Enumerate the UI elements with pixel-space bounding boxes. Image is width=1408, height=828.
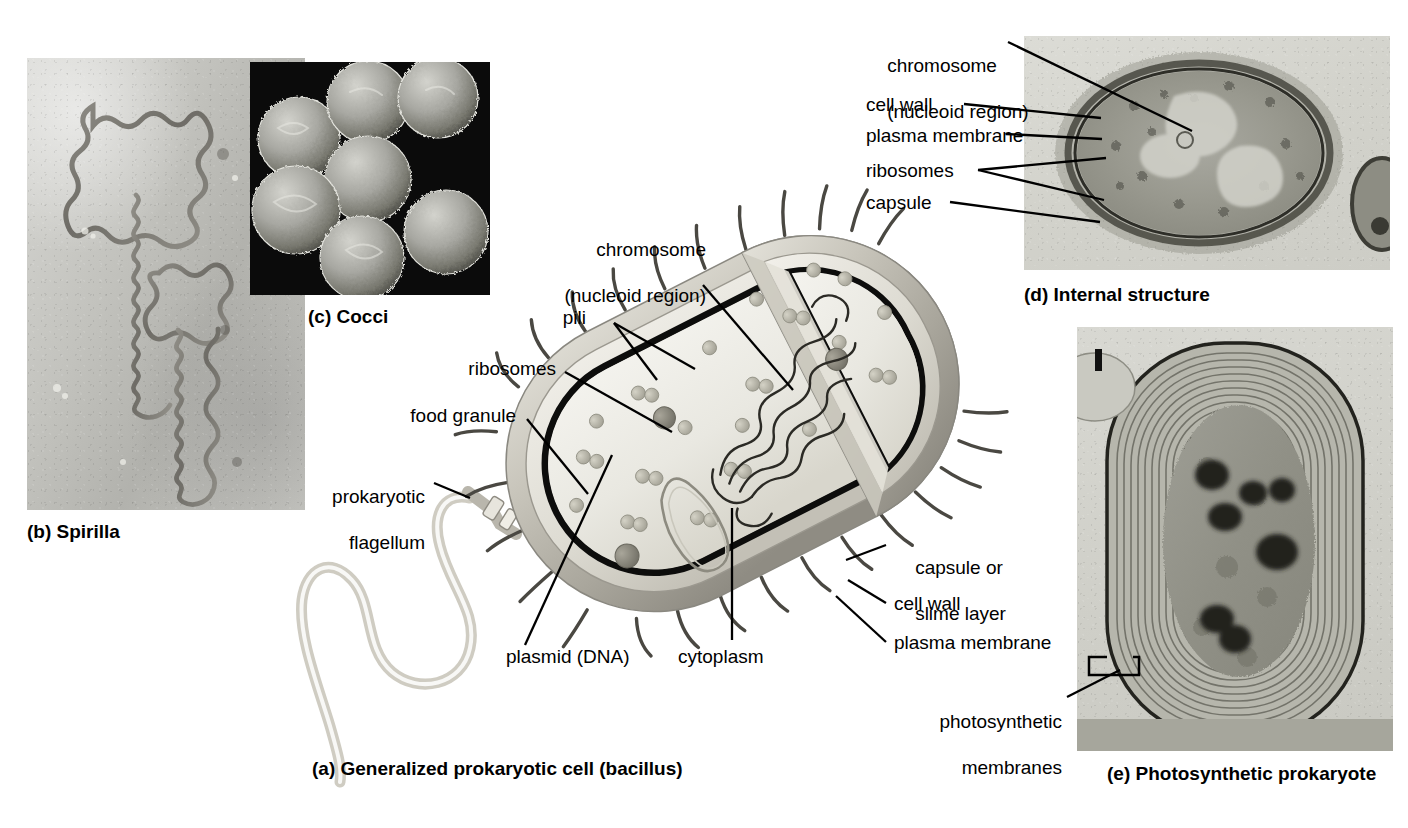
scale-bar [1095, 349, 1102, 371]
panel-d-caption: (d) Internal structure [1024, 283, 1210, 306]
panel-c-caption: (c) Cocci [308, 305, 388, 328]
label-ribosomes: ribosomes [346, 357, 556, 380]
food-granule [611, 540, 643, 572]
label-d-cell-wall: cell wall [866, 93, 933, 116]
label-plasma-membrane: plasma membrane [894, 631, 1051, 654]
label-d-ribosomes: ribosomes [866, 159, 954, 182]
label-cell-wall: cell wall [894, 592, 961, 615]
label-d-plasma-membrane: plasma membrane [866, 124, 1023, 147]
label-cytoplasm: cytoplasm [678, 645, 764, 668]
figure-root: (b) Spirilla [0, 0, 1408, 828]
panel-a-leader-lines [434, 285, 886, 645]
cutaway-wedge [742, 185, 1010, 517]
internal-structure-cell [1024, 36, 1390, 270]
label-pili: pili [466, 306, 586, 329]
photosynthetic-cell [1077, 327, 1393, 751]
label-food-granule: food granule [306, 404, 516, 427]
label-e-photosynthetic-membranes: photosynthetic membranes [866, 687, 1062, 802]
panel-b-caption: (b) Spirilla [27, 520, 120, 543]
micrograph-internal-structure [1024, 36, 1390, 270]
panel-a-caption: (a) Generalized prokaryotic cell (bacill… [312, 757, 683, 780]
label-plasmid-dna: plasmid (DNA) [506, 645, 630, 668]
plasmid-dna [648, 469, 738, 581]
label-d-capsule: capsule [866, 191, 932, 214]
label-prokaryotic-flagellum: prokaryotic flagellum [250, 462, 425, 577]
micrograph-photosynthetic-prokaryote [1077, 327, 1393, 751]
flagellum-basal-body [468, 492, 518, 534]
panel-e-caption: (e) Photosynthetic prokaryote [1107, 762, 1376, 785]
dark-granule [822, 345, 852, 375]
dark-granule [650, 403, 680, 433]
